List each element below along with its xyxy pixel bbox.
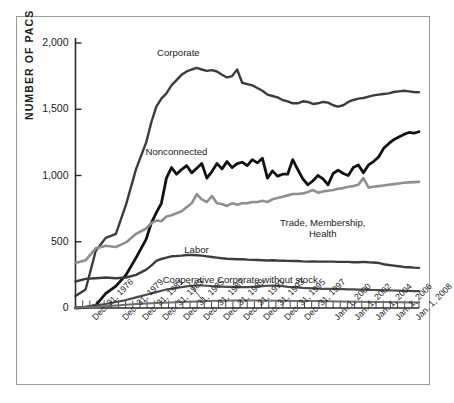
series-label-corporate-without-stock: Corporate without stock xyxy=(217,274,318,285)
y-tick-label-1: 500 xyxy=(27,235,69,247)
series-label-cooperative: Cooperative xyxy=(163,274,215,285)
series-label-nonconnected: Nonconnected xyxy=(146,146,208,157)
series-line-trade-membership-health xyxy=(76,178,420,263)
y-tick-label-2: 1,000 xyxy=(27,169,69,181)
axes-group xyxy=(76,38,420,308)
y-tick-label-3: 1,500 xyxy=(27,102,69,114)
y-tick-label-0: 0 xyxy=(27,301,69,313)
series-label-labor: Labor xyxy=(184,244,209,255)
series-label-trade-membership-health: Trade, Membership,Health xyxy=(280,217,366,239)
series-label-corporate: Corporate xyxy=(157,47,200,58)
series-group xyxy=(76,68,420,308)
y-tick-label-4: 2,000 xyxy=(27,36,69,48)
